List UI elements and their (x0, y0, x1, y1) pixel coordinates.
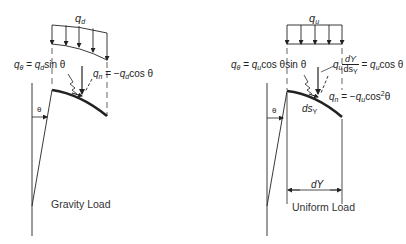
eq-sign: = (240, 59, 251, 70)
den-subscript: Y (353, 68, 358, 75)
eq-sign: = − (338, 91, 355, 102)
eq-sign: = (23, 59, 34, 70)
eq-tail: cos θ (380, 59, 404, 70)
segment-ds-label: dsY (302, 104, 317, 115)
eq-end: θ (385, 91, 391, 102)
uniform-load-label: qu (309, 13, 319, 25)
uniform-projected-equation: qudYdsY = qucos θ (333, 55, 403, 75)
eq-tail: cos θsin θ (261, 59, 306, 70)
uniform-tangential-equation: qθ = qucos θsin θ (231, 60, 306, 71)
gravity-load-bottom-edge (52, 44, 107, 60)
den-text: ds (343, 64, 353, 74)
arch-load-diagram: qd qθ = qdsin θ qn = −qdcos θ θ Gravity … (0, 0, 406, 244)
eq-sign: = (359, 59, 370, 70)
gravity-normal-equation: qn = −qdcos θ (93, 69, 153, 80)
gravity-load-label: qd (75, 13, 85, 25)
segment-subscript: Y (313, 108, 318, 115)
uniform-angle-label: θ (272, 107, 276, 115)
gravity-caption: Gravity Load (51, 199, 111, 210)
dy-over-ds-fraction: dYdsY (342, 55, 358, 75)
dimension-dy-label: dY (311, 180, 323, 190)
gravity-load-top-edge (52, 25, 107, 33)
eq-sign: = − (102, 68, 119, 79)
load-subscript: d (81, 18, 85, 25)
eq-tail: cos (365, 91, 381, 102)
uniform-normal-equation: qn = −qucos2θ (329, 90, 390, 103)
gravity-tangential-equation: qθ = qdsin θ (14, 60, 65, 71)
uniform-caption: Uniform Load (292, 202, 355, 213)
eq-tail: cos θ (129, 68, 153, 79)
gravity-angle-label: θ (37, 106, 41, 114)
load-subscript: u (315, 18, 319, 25)
fraction-denominator: dsY (342, 65, 358, 75)
gravity-arch-segment (52, 90, 107, 116)
eq-tail: sin θ (44, 59, 65, 70)
segment-text: ds (302, 103, 313, 114)
